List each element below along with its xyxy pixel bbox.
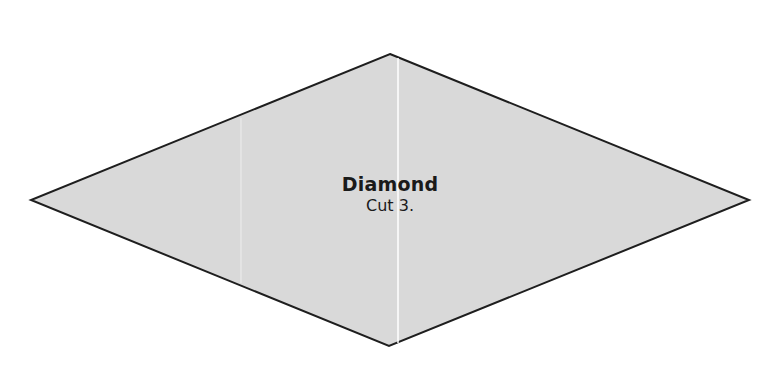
piece-title: Diamond <box>290 172 490 196</box>
piece-label: Diamond Cut 3. <box>290 172 490 216</box>
cut-instruction: Cut 3. <box>290 196 490 216</box>
